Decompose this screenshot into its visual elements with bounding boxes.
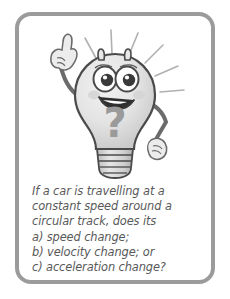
bulb-base-icon [97, 149, 133, 178]
question-mark-glyph: ? [103, 100, 126, 146]
lightbulb-illustration: ? [19, 16, 211, 184]
question-line-2: constant speed around a [32, 199, 212, 214]
question-text: If a car is travelling at a constant spe… [32, 184, 212, 275]
question-line-3: circular track, does its [32, 214, 212, 229]
question-option-b: b) velocity change; or [32, 245, 212, 260]
question-line-1: If a car is travelling at a [32, 184, 212, 199]
question-option-a: a) speed change; [32, 230, 212, 245]
question-card: ? If a car is travelling at a constant s… [15, 12, 215, 284]
question-option-c: c) acceleration change? [32, 260, 212, 275]
